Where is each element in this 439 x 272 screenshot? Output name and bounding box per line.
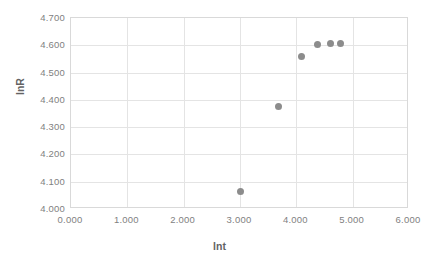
y-tick-label: 4.000 xyxy=(1,203,65,214)
data-point xyxy=(275,103,282,110)
y-axis-tick-labels: 4.0004.1004.2004.3004.4004.5004.6004.700 xyxy=(0,0,65,272)
gridline-vertical xyxy=(296,18,297,207)
data-point xyxy=(314,41,321,48)
y-tick-label: 4.400 xyxy=(1,93,65,104)
gridline-vertical xyxy=(353,18,354,207)
gridline-vertical xyxy=(184,18,185,207)
gridline-horizontal xyxy=(71,100,407,101)
x-tick-label: 6.000 xyxy=(373,214,439,225)
y-tick-label: 4.100 xyxy=(1,175,65,186)
gridline-horizontal xyxy=(71,127,407,128)
gridline-vertical xyxy=(240,18,241,207)
gridline-horizontal xyxy=(71,182,407,183)
data-point xyxy=(327,40,334,47)
gridline-vertical xyxy=(127,18,128,207)
plot-area xyxy=(70,17,408,208)
scatter-chart: 4.0004.1004.2004.3004.4004.5004.6004.700… xyxy=(0,0,439,272)
bottom-caption xyxy=(0,261,439,272)
y-axis-title: lnR xyxy=(14,78,26,95)
gridline-horizontal xyxy=(71,45,407,46)
y-tick-label: 4.600 xyxy=(1,39,65,50)
y-tick-label: 4.700 xyxy=(1,12,65,23)
y-tick-label: 4.300 xyxy=(1,121,65,132)
data-point xyxy=(298,53,305,60)
y-tick-label: 4.500 xyxy=(1,66,65,77)
data-point xyxy=(337,40,344,47)
x-axis-title: lnt xyxy=(0,240,439,252)
gridline-horizontal xyxy=(71,154,407,155)
gridline-horizontal xyxy=(71,73,407,74)
x-axis-tick-labels: 0.0001.0002.0003.0004.0005.0006.000 xyxy=(0,214,439,230)
data-point xyxy=(237,188,244,195)
y-tick-label: 4.200 xyxy=(1,148,65,159)
